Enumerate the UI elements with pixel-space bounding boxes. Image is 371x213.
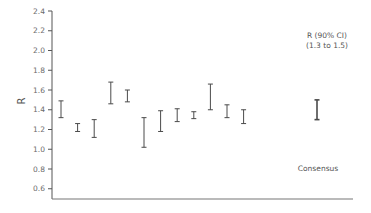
error-bar [158, 111, 163, 132]
y-tick-label: 1.8 [33, 66, 45, 75]
annotation-range: (1.3 to 1.5) [306, 41, 348, 50]
y-tick-label: 1.2 [33, 125, 45, 134]
error-bar [59, 101, 64, 118]
error-bar-chart: 0.60.81.01.21.41.61.82.02.22.4 R R (90% … [0, 0, 371, 213]
y-tick-label: 2.4 [33, 7, 45, 16]
error-bar [175, 109, 180, 122]
y-axis-ticks: 0.60.81.01.21.41.61.82.02.22.4 [33, 7, 52, 194]
y-tick-label: 1.0 [33, 145, 45, 154]
error-bar [108, 82, 113, 104]
y-tick-label: 2.0 [33, 46, 45, 55]
error-bar [241, 110, 246, 124]
error-bar [225, 105, 230, 118]
y-tick-label: 0.6 [33, 184, 45, 193]
error-bar [75, 124, 80, 132]
annotation-title: R (90% CI) [307, 31, 347, 40]
y-tick-label: 1.4 [33, 105, 45, 114]
error-bar [142, 118, 147, 148]
consensus-label: Consensus [298, 164, 339, 173]
y-tick-label: 1.6 [33, 86, 45, 95]
y-tick-label: 0.8 [33, 165, 45, 174]
error-bar [208, 84, 213, 110]
y-axis-label: R [16, 97, 27, 104]
error-bar [92, 120, 97, 138]
y-tick-label: 2.2 [33, 26, 45, 35]
error-bars [59, 82, 320, 147]
error-bar [125, 90, 130, 102]
consensus-error-bar [315, 100, 320, 120]
error-bar [191, 112, 196, 119]
